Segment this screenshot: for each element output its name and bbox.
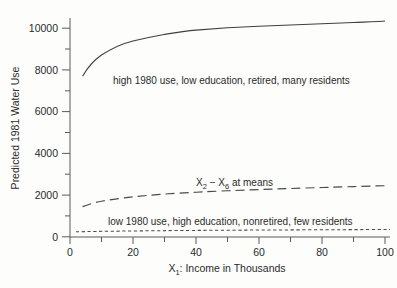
x-tick-label: 40 [190,246,202,258]
y-tick-label: 10000 [29,22,58,34]
x-tick-label: 0 [67,246,73,258]
x-tick-label: 80 [316,246,328,258]
y-axis-title: Predicted 1981 Water Use [9,66,21,189]
middle-annot-tail: at means [232,177,273,188]
lower-curve-annotation: low 1980 use, high education, nonretired… [108,216,353,227]
upper-curve-annotation: high 1980 use, low education, retired, m… [113,75,350,86]
chart-background [0,0,397,288]
y-tick-label: 6000 [35,105,59,117]
water-use-line-chart: 10000 8000 6000 4000 2000 0 0 20 [0,0,397,288]
y-tick-label: 4000 [35,147,59,159]
y-tick-label: 2000 [35,189,59,201]
x-tick-label: 60 [253,246,265,258]
x-tick-label: 20 [127,246,139,258]
y-tick-label: 8000 [35,64,59,76]
y-tick-label: 0 [52,231,58,243]
x-tick-label: 100 [376,246,394,258]
chart-figure: 10000 8000 6000 4000 2000 0 0 20 [0,0,397,288]
